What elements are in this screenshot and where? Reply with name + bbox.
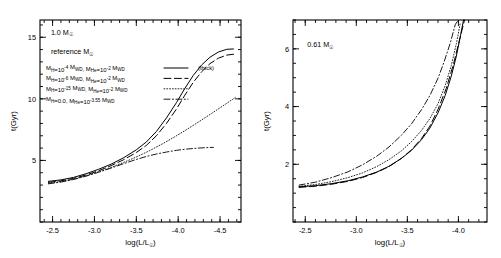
legend-entry-label: MH=10-15 MWD, MHe=10-2 MWD [46,85,128,94]
legend-entry-label: MH=10-6 MWD, MHe=10-2 MWD [46,75,126,84]
chart-panel-left: -2.5-3.0-3.5-4.0-4.551015log(L/L☉)t(Gyr)… [0,0,255,258]
data-curve [48,98,235,184]
x-tick-label: -3.5 [130,226,143,235]
y-tick-label: 5 [32,156,36,165]
y-axis-label: t(Gyr) [262,111,271,131]
panel-annotation: reference M☉ [51,47,94,57]
y-tick-label: 10 [28,95,36,104]
x-tick-label: -2.5 [299,226,312,235]
legend-entry-label: MH=0.0, MHe=10-3.55 MWD [46,96,115,105]
chart-svg-right: -2.5-3.0-3.5-4.0246log(L/L☉)t(Gyr)0.61 M… [255,0,501,258]
x-axis-label: log(L/L☉) [375,238,406,248]
x-tick-label: -3.5 [401,226,414,235]
x-tick-label: -3.0 [350,226,363,235]
panel-annotation: 0.61 M☉ [307,40,334,50]
y-tick-label: 6 [285,45,289,54]
chart-panel-right: -2.5-3.0-3.5-4.0246log(L/L☉)t(Gyr)0.61 M… [255,0,501,258]
x-tick-label: -4.5 [214,226,227,235]
x-axis-label: log(L/L☉) [125,238,156,248]
x-tick-label: -4.0 [172,226,185,235]
y-tick-label: 4 [285,102,289,111]
y-tick-label: 2 [285,160,289,169]
x-tick-label: -4.0 [452,226,465,235]
chart-svg-left: -2.5-3.0-3.5-4.0-4.551015log(L/L☉)t(Gyr)… [0,0,255,258]
x-tick-label: -3.0 [88,226,101,235]
panel-annotation: 1.0 M☉ [51,28,74,38]
y-axis-label: t(Gyr) [9,111,18,131]
data-curve [48,54,233,182]
x-tick-label: -2.5 [46,226,59,235]
y-tick-label: 15 [28,33,36,42]
figure-container: -2.5-3.0-3.5-4.0-4.551015log(L/L☉)t(Gyr)… [0,0,501,258]
legend-entry-label: MH=10-4 MWD, MHe=10-2 MWD [46,64,126,73]
legend-extra-label: (thick) [198,65,214,71]
